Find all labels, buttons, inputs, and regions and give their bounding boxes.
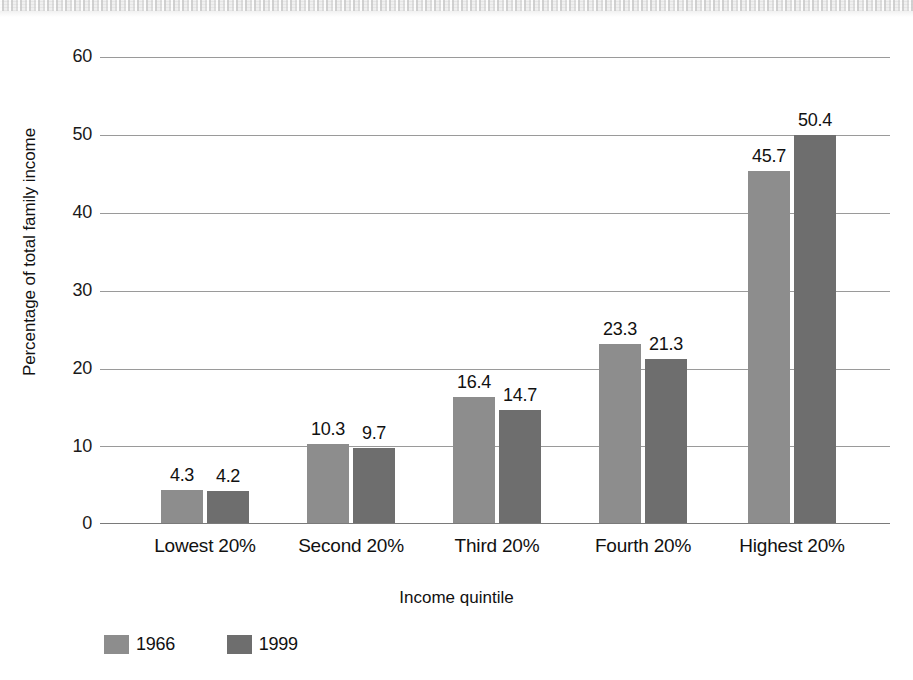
bar-1999-highest-20[interactable]: 50.4 [794,135,836,523]
bar-1966-lowest-20[interactable]: 4.3 [161,490,203,523]
bar-1999-fourth-20[interactable]: 21.3 [645,359,687,523]
x-category-label-fourth-20: Fourth 20% [575,535,711,557]
legend-item-1999[interactable]: 1999 [227,634,298,655]
y-tick-label-40: 40 [58,202,92,223]
y-axis-tick-labels: 60 50 40 30 20 10 0 [52,57,92,527]
y-tick-label-60: 60 [58,46,92,67]
x-category-label-second-20: Second 20% [283,535,419,557]
bar-1999-second-20[interactable]: 9.7 [353,448,395,523]
bar-chart-figure: Percentage of total family income 60 50 … [0,0,913,680]
x-category-label-lowest-20: Lowest 20% [137,535,273,557]
bar-value-1999-second-20: 9.7 [362,423,386,444]
bar-value-1966-fourth-20: 23.3 [603,319,637,340]
gridline-50 [100,135,890,136]
bar-1966-highest-20[interactable]: 45.7 [748,171,790,523]
plot-area: 4.3 4.2 Lowest 20% 10.3 9.7 Second 20% 1… [100,57,890,527]
bar-value-1966-second-20: 10.3 [311,419,345,440]
bar-1999-lowest-20[interactable]: 4.2 [207,491,249,523]
y-tick-label-20: 20 [58,358,92,379]
bar-1966-second-20[interactable]: 10.3 [307,444,349,523]
bar-1999-third-20[interactable]: 14.7 [499,410,541,523]
gridline-60 [100,57,890,58]
y-tick-label-30: 30 [58,280,92,301]
bar-1966-third-20[interactable]: 16.4 [453,397,495,523]
x-category-label-highest-20: Highest 20% [724,535,860,557]
chart-legend: 1966 1999 [104,634,298,655]
x-category-label-third-20: Third 20% [429,535,565,557]
y-tick-label-10: 10 [58,436,92,457]
bar-value-1966-lowest-20: 4.3 [170,465,194,486]
bar-value-1999-fourth-20: 21.3 [649,334,683,355]
y-tick-label-0: 0 [58,513,92,534]
legend-label-1999: 1999 [259,634,298,655]
bar-value-1999-highest-20: 50.4 [798,110,832,131]
legend-swatch-1966 [104,635,129,654]
legend-label-1966: 1966 [136,634,175,655]
legend-item-1966[interactable]: 1966 [104,634,175,655]
x-axis-baseline [100,523,890,524]
x-axis-title: Income quintile [0,588,913,608]
bar-1966-fourth-20[interactable]: 23.3 [599,344,641,523]
bar-value-1966-third-20: 16.4 [457,372,491,393]
bar-value-1999-lowest-20: 4.2 [216,466,240,487]
bar-value-1966-highest-20: 45.7 [752,146,786,167]
bar-value-1999-third-20: 14.7 [503,385,537,406]
legend-swatch-1999 [227,635,252,654]
y-tick-label-50: 50 [58,124,92,145]
y-axis-title: Percentage of total family income [20,102,40,402]
